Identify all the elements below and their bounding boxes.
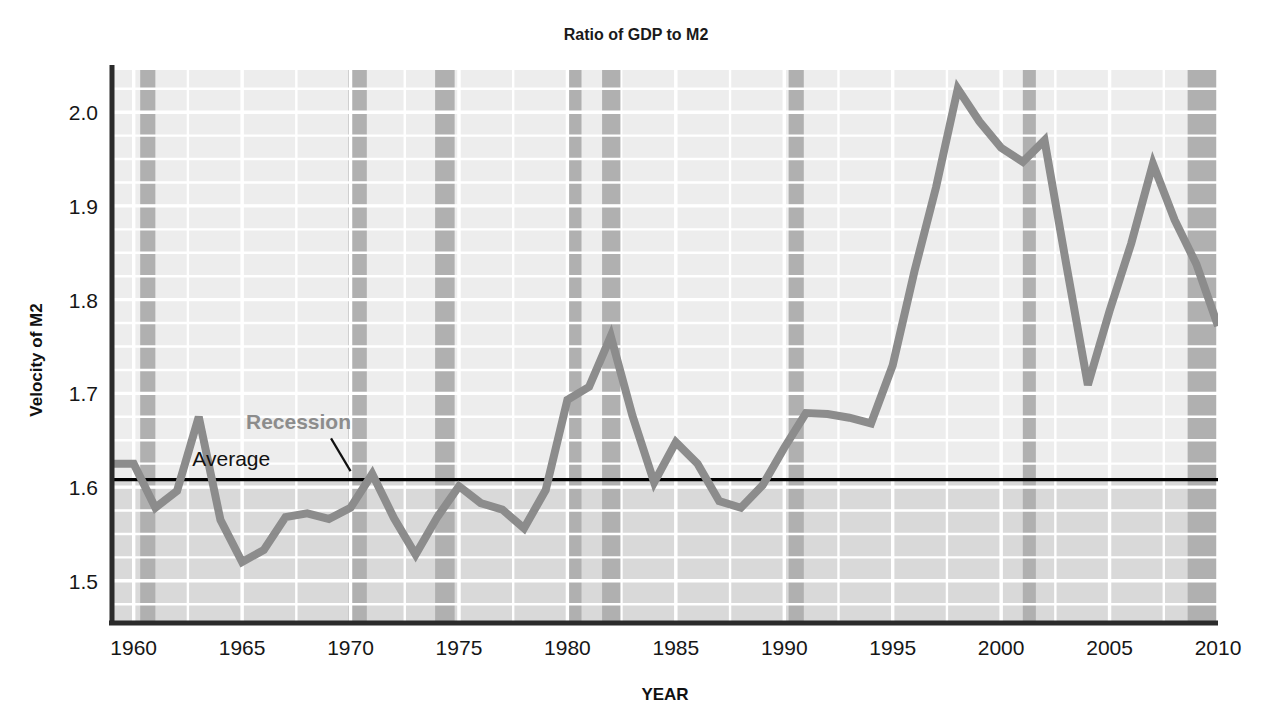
- x-tick-label: 1965: [219, 636, 266, 659]
- y-tick-label: 1.9: [69, 195, 98, 218]
- plot-area: [112, 70, 1218, 623]
- x-tick-label: 1995: [869, 636, 916, 659]
- x-axis-title: YEAR: [641, 685, 688, 704]
- x-tick-label: 2010: [1195, 636, 1242, 659]
- x-tick-label: 1980: [544, 636, 591, 659]
- y-axis-title: Velocity of M2: [27, 303, 46, 416]
- annotation-label-average: Average: [192, 447, 270, 470]
- annotation-label-recession: Recession: [246, 410, 351, 433]
- y-tick-label: 1.7: [69, 382, 98, 405]
- y-tick-label: 1.5: [69, 570, 98, 593]
- x-tick-label: 1970: [327, 636, 374, 659]
- plot-background-below-average: [112, 480, 1218, 623]
- chart-title: Ratio of GDP to M2: [564, 26, 709, 43]
- x-tick-label: 2005: [1086, 636, 1133, 659]
- x-tick-label: 1985: [652, 636, 699, 659]
- x-tick-label: 2000: [978, 636, 1025, 659]
- x-tick-label: 1990: [761, 636, 808, 659]
- y-tick-label: 1.8: [69, 289, 98, 312]
- y-tick-label: 2.0: [69, 101, 98, 124]
- y-tick-label: 1.6: [69, 476, 98, 499]
- x-tick-label: 1975: [436, 636, 483, 659]
- chart-figure: Ratio of GDP to M2 1.51.61.71.81.92.0 19…: [0, 0, 1272, 723]
- x-tick-label: 1960: [110, 636, 157, 659]
